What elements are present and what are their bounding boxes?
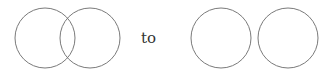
- before-circle-left: [15, 8, 75, 68]
- after-circle-left: [191, 8, 251, 68]
- before-circle-right: [60, 8, 120, 68]
- after-group-separate-circles: [191, 8, 318, 68]
- after-circle-right: [258, 8, 318, 68]
- connector-label: to: [141, 29, 156, 47]
- before-group-overlapping-circles: [15, 8, 120, 68]
- diagram-canvas: to: [0, 0, 332, 75]
